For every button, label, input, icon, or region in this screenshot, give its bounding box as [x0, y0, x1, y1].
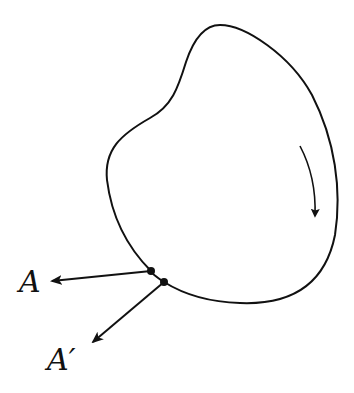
point-a	[147, 267, 155, 275]
label-a: A	[16, 264, 41, 299]
point-a-prime	[160, 278, 168, 286]
circulation-arrow-icon	[300, 146, 315, 216]
vector-a	[52, 271, 151, 281]
vector-a-prime	[93, 282, 164, 342]
diagram-canvas: A A′	[0, 0, 354, 393]
label-a-prime: A′	[44, 342, 76, 377]
closed-curve	[107, 25, 338, 303]
